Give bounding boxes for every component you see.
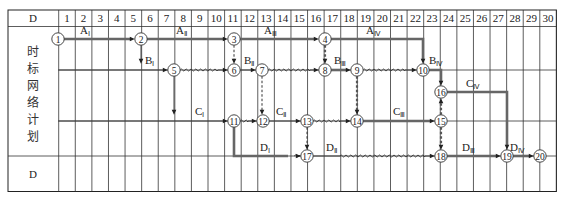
header-d-cell: D (29, 12, 37, 24)
column-header: 7 (164, 12, 170, 24)
node-6: 6 (228, 64, 240, 76)
side-label-char: 网 (27, 79, 39, 93)
node-7: 7 (256, 64, 268, 76)
arrowhead-icon (346, 68, 351, 73)
column-headers: 1234567891011121314151617181920212223242… (64, 12, 554, 24)
footer-d-cell: D (29, 168, 37, 180)
node-number: 9 (355, 66, 360, 76)
activity-label: DⅣ (510, 141, 525, 155)
side-label-char: 络 (27, 95, 39, 110)
arrowhead-icon (314, 68, 319, 73)
arrowhead-icon (314, 37, 319, 42)
activity-label: DⅡ (326, 141, 337, 155)
activity-label-subscript: Ⅱ (251, 60, 254, 68)
arrowhead-icon (412, 68, 417, 73)
node-number: 1 (56, 35, 61, 45)
node-10: 10 (417, 64, 429, 76)
activity-label: CⅣ (466, 77, 480, 91)
dummy-7-12 (260, 76, 265, 115)
column-header: 22 (410, 12, 421, 24)
node-20: 20 (534, 150, 546, 162)
side-label-char: 划 (27, 130, 39, 144)
activity-label-subscript: Ⅱ (283, 111, 286, 119)
activity-C-Ⅰ (58, 119, 228, 124)
activity-line (441, 92, 507, 146)
arrowhead-icon (223, 119, 228, 124)
node-number: 2 (139, 35, 144, 45)
column-header: 17 (327, 12, 339, 24)
column-header: 18 (344, 12, 356, 24)
activity-label: DⅠ (260, 141, 270, 155)
node-number: 14 (352, 117, 362, 127)
node-5: 5 (168, 64, 180, 76)
activity-label: CⅠ (195, 105, 204, 119)
activity-link (172, 70, 177, 115)
arrowhead-icon (430, 119, 435, 124)
column-header: 9 (197, 12, 203, 24)
column-header: 27 (493, 12, 505, 24)
column-header: 3 (97, 12, 103, 24)
side-label-char: 计 (27, 113, 39, 127)
arrowhead-icon (296, 119, 301, 124)
activity-B-Ⅰ (58, 68, 168, 73)
column-header: 14 (277, 12, 289, 24)
arrowhead-icon (305, 145, 310, 150)
column-header: 30 (543, 12, 555, 24)
activity-label-subscript: Ⅳ (436, 60, 443, 68)
column-header: 28 (509, 12, 521, 24)
column-header: 11 (228, 12, 239, 24)
arrowhead-icon (260, 110, 265, 115)
activity-label: BⅡ (244, 54, 254, 68)
dummy-15-16 (439, 98, 444, 115)
dummy-4-8 (323, 45, 328, 64)
arrowhead-icon (139, 59, 144, 64)
node-9: 9 (351, 64, 363, 76)
activity-label-subscript: Ⅱ (334, 147, 337, 155)
activity-label: BⅣ (429, 54, 443, 68)
column-header: 8 (180, 12, 186, 24)
activity-C-Ⅲ (357, 119, 435, 124)
column-header: 4 (114, 12, 120, 24)
node-number: 17 (302, 152, 312, 162)
node-number: 4 (323, 35, 328, 45)
node-number: 6 (232, 66, 237, 76)
node-13: 13 (301, 115, 313, 127)
activity-label: BⅠ (145, 54, 154, 68)
activity-label: BⅢ (334, 54, 346, 68)
column-header: 1 (64, 12, 70, 24)
node-12: 12 (257, 115, 269, 127)
activity-label-subscript: Ⅲ (272, 30, 277, 38)
column-header: 23 (426, 12, 438, 24)
node-2: 2 (135, 33, 147, 45)
activity-label-subscript: Ⅳ (374, 30, 381, 38)
node-number: 18 (436, 152, 446, 162)
arrowhead-icon (223, 37, 228, 42)
column-header: 6 (147, 12, 153, 24)
arrowhead-icon (163, 68, 168, 73)
node-number: 7 (260, 66, 265, 76)
column-header: 10 (211, 12, 223, 24)
activity-label-subscript: Ⅰ (202, 111, 204, 119)
node-16: 16 (435, 86, 447, 98)
column-header: 15 (294, 12, 306, 24)
activity-label-subscript: Ⅳ (473, 83, 480, 91)
arrowhead-icon (355, 110, 360, 115)
node-15: 15 (435, 115, 447, 127)
node-number: 20 (535, 152, 545, 162)
activity-label-subscript: Ⅰ (152, 60, 154, 68)
footer-label: D (29, 168, 37, 180)
node-number: 10 (418, 66, 428, 76)
activity-link (240, 119, 257, 124)
activity-label-subscript: Ⅰ (88, 30, 90, 38)
node-4: 4 (319, 33, 331, 45)
arrowhead-icon (439, 145, 444, 150)
column-header: 29 (526, 12, 538, 24)
node-number: 19 (502, 152, 512, 162)
column-header: 19 (360, 12, 372, 24)
activity-label: CⅡ (276, 105, 286, 119)
activity-label-subscript: Ⅳ (518, 147, 525, 155)
activity-label: DⅢ (462, 141, 475, 155)
event-nodes: 1234567891016111213141517181920 (52, 33, 546, 162)
arrowhead-icon (439, 81, 444, 86)
arrowhead-icon (232, 59, 237, 64)
